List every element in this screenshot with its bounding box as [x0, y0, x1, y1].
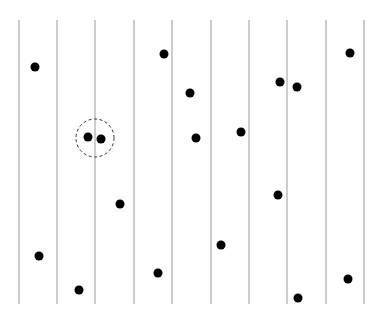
dot-7 — [237, 128, 246, 137]
dot-2 — [160, 50, 169, 59]
parallel-lines-dots-diagram — [0, 0, 380, 321]
dot-15 — [154, 269, 163, 278]
dot-3 — [186, 89, 195, 98]
dot-4 — [84, 133, 93, 142]
dot-6 — [192, 134, 201, 143]
dot-12 — [274, 191, 283, 200]
dot-5 — [97, 135, 106, 144]
dot-13 — [35, 252, 44, 261]
dot-16 — [217, 241, 226, 250]
dot-18 — [344, 275, 353, 284]
dot-1 — [31, 63, 40, 72]
dot-17 — [294, 294, 303, 303]
diagram-canvas — [0, 0, 380, 321]
dot-11 — [116, 200, 125, 209]
dot-8 — [276, 78, 285, 87]
dot-14 — [75, 286, 84, 295]
dot-10 — [346, 49, 355, 58]
dot-9 — [293, 83, 302, 92]
